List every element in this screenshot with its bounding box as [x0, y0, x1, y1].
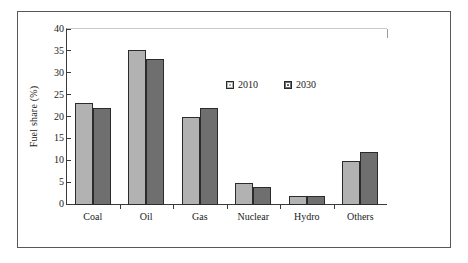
- x-axis-tick-mark: [120, 205, 121, 209]
- x-axis-label: Others: [334, 211, 388, 222]
- x-axis-tick-mark: [227, 205, 228, 209]
- x-axis-ticks: [66, 205, 387, 210]
- x-axis-label: Hydro: [280, 211, 334, 222]
- bar-groups: [66, 28, 387, 205]
- legend-label: 2030: [296, 80, 316, 90]
- legend-swatch: [284, 81, 292, 89]
- bar[interactable]: [75, 103, 93, 205]
- legend-swatch: [226, 81, 234, 89]
- bar[interactable]: [182, 117, 200, 206]
- x-axis-tick-mark: [280, 205, 281, 209]
- bar[interactable]: [93, 108, 111, 205]
- x-axis-label: Gas: [173, 211, 227, 222]
- bar-group: [280, 28, 334, 205]
- x-axis-labels: CoalOilGasNuclearHydroOthers: [66, 211, 387, 222]
- legend-item[interactable]: 2010: [226, 80, 258, 90]
- legend-item[interactable]: 2030: [284, 80, 316, 90]
- x-axis-label: Nuclear: [227, 211, 281, 222]
- bar-group: [173, 28, 227, 205]
- bar[interactable]: [200, 108, 218, 205]
- x-axis-label: Coal: [66, 211, 120, 222]
- bar[interactable]: [235, 183, 253, 205]
- bar-group: [334, 28, 388, 205]
- bar[interactable]: [289, 196, 307, 205]
- bar[interactable]: [253, 187, 271, 205]
- bar-group: [120, 28, 174, 205]
- bar[interactable]: [307, 196, 325, 205]
- bar[interactable]: [342, 161, 360, 205]
- bar-group: [66, 28, 120, 205]
- legend: 20102030: [226, 80, 316, 90]
- bar[interactable]: [146, 59, 164, 205]
- bar[interactable]: [128, 50, 146, 205]
- bar[interactable]: [360, 152, 378, 205]
- legend-label: 2010: [238, 80, 258, 90]
- x-axis-tick-mark: [173, 205, 174, 209]
- plot-right-edge-tick: [387, 29, 388, 38]
- figure-container: Fuel share (%) 0510152025303540 CoalOilG…: [0, 0, 468, 263]
- x-axis-tick-mark: [334, 205, 335, 209]
- bar-group: [227, 28, 281, 205]
- x-axis-label: Oil: [120, 211, 174, 222]
- y-axis-title: Fuel share (%): [26, 28, 40, 205]
